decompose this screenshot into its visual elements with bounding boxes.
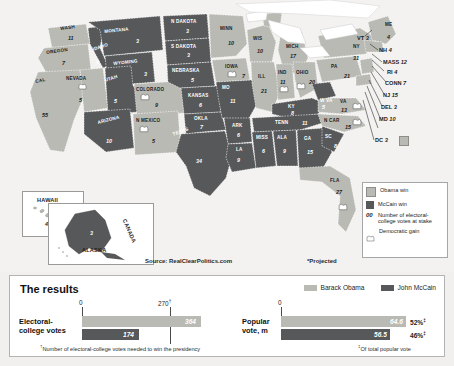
state-label-ill: ILL xyxy=(258,74,266,79)
state-votes-va: 13 xyxy=(341,107,347,113)
state-label-ind: IND xyxy=(278,70,287,75)
state-votes-wva: 5 xyxy=(322,104,325,110)
ec-category-label: Electoral-college votes xyxy=(19,317,66,335)
state-votes-ill: 21 xyxy=(261,88,267,94)
state-votes-fla: 27 xyxy=(336,189,342,195)
state-label-okla: OKLA xyxy=(194,116,208,121)
state-label-ncar: N CAR xyxy=(324,118,340,123)
state-votes-mo: 11 xyxy=(230,98,236,104)
mccain-swatch xyxy=(366,201,374,209)
state-votes-montana: 3 xyxy=(136,38,139,44)
state-votes-iowa: 7 xyxy=(242,73,245,79)
state-label-kansas: KANSAS xyxy=(188,93,209,98)
results-panel: The results Barack Obama John McCain 0 2… xyxy=(9,275,445,357)
pv-pct-obama: 52%‡ xyxy=(410,318,426,326)
state-votes-wis: 10 xyxy=(257,48,263,54)
state-votes-nebraska: 5 xyxy=(191,77,194,83)
callout-nh: NH 4 xyxy=(379,47,392,53)
state-votes-kansas: 6 xyxy=(199,102,202,108)
pv-value-obama: 64.6 xyxy=(390,318,403,325)
state-label-nebraska: NEBRASKA xyxy=(172,68,200,73)
state-votes-wash: 11 xyxy=(68,35,74,41)
dc-swatch xyxy=(399,136,409,146)
map-legend: Obama win McCain win 00 Number of electo… xyxy=(362,182,448,258)
projected-note: *Projected xyxy=(307,258,337,264)
state-votes-me: 4 xyxy=(387,34,390,40)
pv-tick-zero xyxy=(281,307,282,316)
state-votes-cal: 55 xyxy=(42,112,48,118)
pv-category-label: Popularvote, m xyxy=(242,317,270,335)
democratic-gain-icon xyxy=(366,228,375,246)
legend-number-marker: 00 xyxy=(366,212,374,218)
state-label-tenn: TENN xyxy=(275,120,288,125)
democratic-gain-icon-nevada xyxy=(78,83,87,90)
state-votes-ncar: 15 xyxy=(345,124,351,130)
legend-vote-count: 00 Number of electoral-college votes at … xyxy=(366,212,444,225)
legend-dem-gain: Democratic gain xyxy=(366,228,444,246)
obama-swatch xyxy=(366,187,376,197)
electoral-map: .st{stroke:#ffffff;stroke-width:.55;stro… xyxy=(0,0,454,272)
state-votes-colorado: 9 xyxy=(155,102,158,108)
state-label-mo: MO xyxy=(222,85,230,90)
ec-value-mccain: 174 xyxy=(123,331,134,338)
state-votes-sdakota: 3 xyxy=(187,52,190,58)
state-votes-ark: 6 xyxy=(237,132,240,138)
democratic-gain-icon-colorado xyxy=(140,93,150,101)
state-label-ohio: OHIO xyxy=(296,70,309,75)
state-label-pa: PA xyxy=(331,64,337,69)
state-label-wva: W VA xyxy=(320,98,332,103)
pv-pct-mccain: 46%‡ xyxy=(410,331,426,339)
state-votes-ga: 15 xyxy=(307,149,313,155)
callout-nj: NJ 15 xyxy=(383,92,398,98)
state-votes-oregon: 7 xyxy=(62,60,65,66)
democratic-gain-icon-fla xyxy=(338,203,348,211)
state-label-ark: ARK xyxy=(232,123,243,128)
state-label-ala: ALA xyxy=(277,135,287,140)
callout-md: MD 10 xyxy=(379,116,396,122)
state-label-iowa: IOWA xyxy=(225,64,238,69)
legend-obama-label: Obama win xyxy=(380,187,408,193)
democratic-gain-icon-nmexico xyxy=(139,125,149,133)
state-label-nmexico: N MEXICO xyxy=(136,118,160,123)
state-votes-wyoming: 3 xyxy=(144,71,147,77)
source-text: Source: RealClearPolitics.com xyxy=(145,258,232,264)
state-label-me: ME xyxy=(385,22,392,27)
state-label-minn: MINN xyxy=(220,26,233,31)
state-label-nevada: NEVADA xyxy=(66,76,86,81)
callout-ri: RI 4 xyxy=(387,69,397,75)
state-votes-nevada: 5 xyxy=(79,97,82,103)
callout-del: DEL 3 xyxy=(381,104,397,110)
legend-obama-win: Obama win xyxy=(366,187,444,197)
state-votes-ndakota: 3 xyxy=(186,28,189,34)
chart-popular-vote: 0 Popularvote, m 64.6 52%‡ 56.5 46%‡ ‡Of… xyxy=(238,276,446,358)
legend-dem-gain-label: Democratic gain xyxy=(379,228,419,234)
democratic-gain-icon-va xyxy=(352,102,362,110)
state-votes-sc: 8 xyxy=(334,143,337,149)
state-label-va: VA xyxy=(340,99,346,104)
legend-number-text: Number of electoral-college votes at sta… xyxy=(378,212,436,225)
state-votes-idaho: 4 xyxy=(96,59,99,65)
ec-axis-tick-0: 0 xyxy=(79,299,83,306)
state-votes-texas: 34 xyxy=(196,158,202,164)
state-votes-nmexico: 5 xyxy=(152,138,155,144)
callout-mass: MASS 12 xyxy=(383,59,407,65)
state-votes-ohio: 20 xyxy=(309,79,315,85)
pv-value-mccain: 56.5 xyxy=(374,331,387,338)
state-votes-arizona: 10 xyxy=(106,138,112,144)
democratic-gain-icon-ind xyxy=(279,85,289,93)
legend-mccain-label: McCain win xyxy=(378,201,407,207)
infographic-root: .st{stroke:#ffffff;stroke-width:.55;stro… xyxy=(0,0,454,366)
state-label-fla: FLA xyxy=(330,178,340,183)
democratic-gain-icon-ohio xyxy=(296,82,306,90)
state-label-wis: WIS xyxy=(253,36,262,41)
ec-threshold-label: 270† xyxy=(158,299,171,307)
alaska-label: ALASKA xyxy=(82,247,107,253)
state-label-ny: NY xyxy=(353,44,360,49)
legend-mccain-win: McCain win xyxy=(366,201,444,209)
callout-vt: VT 3 xyxy=(357,35,369,41)
state-votes-ny: 31 xyxy=(353,55,359,61)
state-label-ky: KY xyxy=(288,104,295,109)
state-votes-mich: 17 xyxy=(290,53,296,59)
ec-tick-zero xyxy=(82,307,83,316)
pv-footnote: ‡Of total popular vote xyxy=(358,344,411,352)
